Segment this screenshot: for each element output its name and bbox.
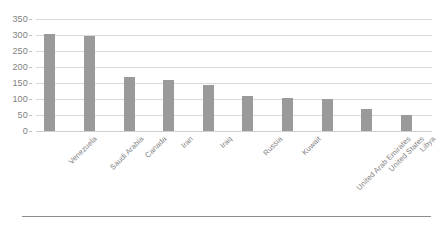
category-label: Iran — [179, 135, 194, 150]
bar — [203, 85, 214, 131]
category-label: United Arab Emirates — [355, 135, 412, 192]
category-label: Venezuela — [67, 135, 98, 166]
y-tick-mark-100 — [29, 99, 32, 100]
bar — [282, 98, 293, 131]
x-axis-categories: VenezuelaSaudi ArabiaCanadaIranIraqRussi… — [36, 131, 432, 201]
y-tick-label-300: 300 — [12, 31, 28, 40]
y-tick-label-0: 0 — [23, 127, 28, 136]
y-tick-label-150: 150 — [12, 79, 28, 88]
bar — [44, 34, 55, 131]
bar — [84, 36, 95, 131]
category-label: Russia — [262, 135, 284, 157]
y-axis: 050100150200250300350 — [0, 19, 32, 131]
bar-chart: 050100150200250300350 VenezuelaSaudi Ara… — [0, 0, 441, 234]
y-tick-mark-150 — [29, 83, 32, 84]
y-tick-mark-50 — [29, 115, 32, 116]
category-label: Kuwait — [301, 135, 323, 157]
y-tick-mark-200 — [29, 67, 32, 68]
category-label: Saudi Arabia — [109, 135, 145, 171]
bar — [401, 115, 412, 131]
bottom-divider — [22, 216, 431, 217]
y-tick-mark-250 — [29, 51, 32, 52]
category-label: Iraq — [219, 135, 234, 150]
bar — [124, 77, 135, 131]
y-tick-label-350: 350 — [12, 15, 28, 24]
y-tick-mark-0 — [29, 131, 32, 132]
bar — [322, 99, 333, 131]
y-tick-mark-300 — [29, 35, 32, 36]
bars — [36, 19, 432, 131]
bar — [361, 109, 372, 131]
y-tick-label-50: 50 — [18, 111, 28, 120]
y-tick-label-100: 100 — [12, 95, 28, 104]
y-tick-label-200: 200 — [12, 63, 28, 72]
plot-area — [36, 19, 432, 131]
bar — [163, 80, 174, 131]
y-tick-label-250: 250 — [12, 47, 28, 56]
y-tick-mark-350 — [29, 19, 32, 20]
bar — [242, 96, 253, 131]
category-label: Canada — [144, 135, 168, 159]
